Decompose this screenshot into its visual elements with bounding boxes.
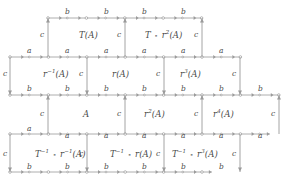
arrowhead-right [232,132,235,136]
arrowhead-right [156,132,159,136]
graph-node [162,17,165,20]
arrowhead-right [117,170,120,174]
graph-node [144,94,146,96]
arrowhead-right [232,93,235,97]
arrowhead-right [155,16,158,20]
arrowhead-right [21,93,24,97]
graph-node [67,171,69,173]
arrowhead-right [175,93,178,97]
graph-node [124,171,127,174]
cell-r2A: r2(A) [144,110,165,119]
arrowhead-down [238,168,242,172]
graph-node [182,56,184,58]
arrowhead-down [8,91,12,95]
arrowhead-right [40,55,43,59]
graph-node [66,17,68,19]
edge-label-b: b [142,85,147,93]
arrowhead-right [194,55,197,59]
arrowhead-right [79,55,82,59]
arrowhead-right [213,132,216,136]
edge-label-b: b [258,85,263,93]
graph-node [201,171,204,174]
arrowhead-right [79,170,82,174]
arrowhead-right [136,170,139,174]
edge-label-c: c [40,110,44,118]
edge-label-b: b [181,8,186,16]
cell-r3A: r3(A) [180,70,201,79]
graph-node [220,56,222,58]
arrowhead-right [213,55,216,59]
edge-label-b: b [219,85,224,93]
graph-node [220,94,222,96]
graph-node [182,94,184,96]
arrowhead-right [209,170,212,174]
edge-label-c: c [40,31,44,39]
arrowhead-right [136,55,139,59]
edge-label-b: b [181,85,186,93]
edge-label-a: a [104,47,108,55]
arrowhead-down [8,168,12,172]
arrowhead-right [98,93,101,97]
arrowhead-right [98,132,101,136]
edge-label-a: a [104,132,108,140]
arrowhead-right [194,16,197,20]
arrowhead-right [117,55,120,59]
arrowhead-right [21,55,24,59]
edge-label-b: b [104,85,109,93]
edge-label-c: c [271,110,275,118]
arrowhead-right [60,170,63,174]
graph-node [67,56,69,58]
edge-label-c: c [232,70,236,78]
graph-node [28,56,30,58]
arrowhead-right [60,55,63,59]
edge-label-b: b [65,85,70,93]
arrowhead-right [175,55,178,59]
edge-label-c: c [79,150,83,158]
cell-Tinv-r3A: T−1 ∘ r3(A) [172,150,218,159]
arrowhead-right [40,93,43,97]
arrowhead-right [194,93,197,97]
graph-node [143,17,145,19]
tiling-diagram: T(A)T ∘ r2(A)r−1(A)r(A)r3(A)Ar2(A)r4(A)T… [0,0,290,181]
arrowhead-right [79,132,82,136]
arrowhead-right [21,132,24,136]
arrowhead-right [156,93,159,97]
arrowhead-right [156,170,159,174]
arrowhead-right [79,93,82,97]
arrowhead-right [174,16,177,20]
arrowhead-right [117,132,120,136]
graph-node [259,94,261,96]
edge-label-c: c [79,70,83,78]
arrowhead-right [60,132,63,136]
edge-label-b: b [142,8,147,16]
cell-TA: T(A) [79,31,98,40]
graph-node [105,17,107,19]
edge-label-b: b [27,163,32,171]
graph-node [182,17,184,19]
edge-label-b: b [181,163,186,171]
cell-Tinv-rA: T−1 ∘ r(A) [110,150,152,159]
edge-label-b: b [104,8,109,16]
arrowhead-right [98,16,101,20]
arrowhead-right [136,93,139,97]
arrowhead-right [175,132,178,136]
edge-label-b: b [219,163,224,171]
arrowhead-right [98,170,101,174]
edge-label-c: c [194,110,198,118]
edge-label-a: a [181,47,185,55]
graph-node [28,171,30,173]
edge-label-a: a [219,47,223,55]
edge-label-a: a [219,132,223,140]
edge-label-b: b [142,163,147,171]
cell-r4A: r4(A) [213,110,234,119]
edge-label-c: c [156,70,160,78]
arrowhead-right [267,132,270,136]
edge-label-c: c [232,150,236,158]
edge-label-b: b [65,163,70,171]
edge-label-c: c [117,31,121,39]
arrowhead-right [98,55,101,59]
edge-label-a: a [65,47,69,55]
graph-node [28,133,30,135]
arrowhead-up [200,95,204,99]
arrowhead-right [194,132,197,136]
